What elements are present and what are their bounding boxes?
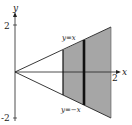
y-tick-label-bottom: -2 [1, 113, 10, 123]
x-axis-label: x [122, 67, 127, 77]
label-y-equals-x: y=x [61, 34, 76, 42]
label-y-equals-minus-x: y=−x [60, 106, 81, 114]
y-axis-label: y [12, 3, 19, 13]
y-tick-label-top: 2 [4, 21, 10, 31]
x-tick-label: 2 [112, 73, 118, 83]
diagram-canvas: y x 2 -2 2 y=x y=−x [0, 0, 132, 125]
